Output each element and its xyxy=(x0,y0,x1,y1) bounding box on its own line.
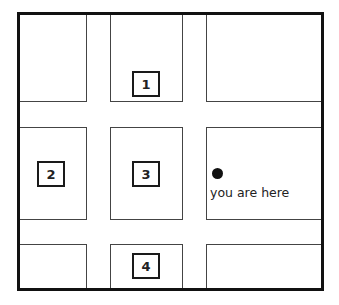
location-number: 2 xyxy=(46,167,55,182)
location-number: 3 xyxy=(141,167,150,182)
map-border xyxy=(17,12,324,291)
location-number: 1 xyxy=(141,77,150,92)
you-are-here-dot-icon xyxy=(212,168,223,179)
location-label-4: 4 xyxy=(132,253,160,279)
location-label-2: 2 xyxy=(37,161,65,187)
location-label-1: 1 xyxy=(132,71,160,97)
location-label-3: 3 xyxy=(132,161,160,187)
location-number: 4 xyxy=(141,259,150,274)
you-are-here-label: you are here xyxy=(210,185,289,200)
